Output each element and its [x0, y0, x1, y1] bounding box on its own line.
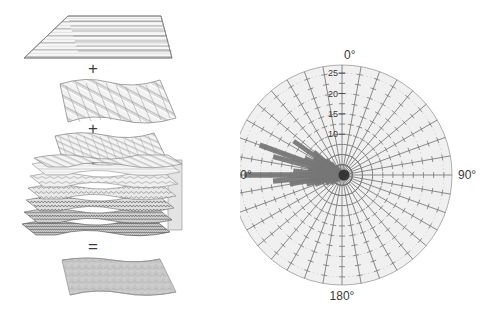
layer-sheet-2: [60, 79, 176, 123]
radial-tick-label: 15: [328, 109, 338, 119]
layer-stack: [22, 155, 182, 236]
layer-decomposition-svg: + +: [0, 0, 240, 313]
layer-decomposition-panel: + +: [0, 0, 240, 313]
operator-equals: =: [88, 237, 98, 256]
operator-plus-1: +: [88, 59, 98, 78]
polar-rose-svg: 10152025 0° 90° 180° 270°: [240, 0, 484, 313]
angle-label-180: 180°: [330, 289, 355, 303]
angle-label-270: 270°: [240, 168, 252, 182]
layer-result-composite: [62, 258, 176, 295]
angle-label-90: 90°: [458, 168, 476, 182]
radial-tick-label: 10: [328, 129, 338, 139]
figure-root: + +: [0, 0, 484, 313]
layer-sheet-1: [24, 16, 172, 58]
polar-rose-panel: 10152025 0° 90° 180° 270°: [240, 0, 484, 313]
polar-data-core: [339, 170, 350, 181]
radial-tick-label: 25: [328, 68, 338, 78]
radial-tick-label: 20: [328, 89, 338, 99]
angle-label-0: 0°: [344, 48, 356, 62]
